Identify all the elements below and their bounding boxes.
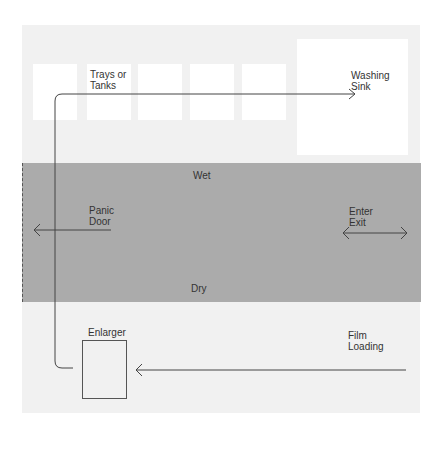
panic-door-label: PanicDoor [89,205,114,227]
wet-label: Wet [193,170,211,181]
film-loading-label: FilmLoading [348,330,384,352]
sink-label: WashingSink [351,70,390,92]
dry-label: Dry [191,283,207,294]
enter-exit-label: EnterExit [349,206,373,228]
trays-label: Trays orTanks [90,69,126,91]
flow-arrows [0,0,440,453]
enlarger-label: Enlarger [88,327,126,338]
